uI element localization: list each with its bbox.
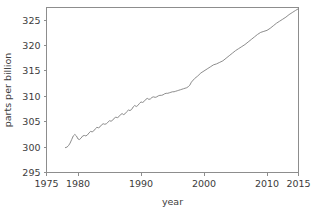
y-tick-label: 325 <box>22 15 40 26</box>
y-axis-title: parts per billion <box>2 53 13 128</box>
x-tick-label: 1990 <box>129 178 153 189</box>
y-tick-label: 320 <box>22 40 40 51</box>
line-chart: 197519801990200020102015 295300305310315… <box>0 0 313 212</box>
y-tick-label: 310 <box>22 91 40 102</box>
x-tick-label: 1980 <box>66 178 90 189</box>
x-axis-title: year <box>162 196 183 207</box>
x-tick-label: 2010 <box>255 178 279 189</box>
x-tick-label: 2015 <box>286 178 310 189</box>
x-tick-label: 1975 <box>34 178 58 189</box>
figure-container: 197519801990200020102015 295300305310315… <box>0 0 313 212</box>
y-tick-label: 315 <box>22 65 40 76</box>
y-tick-label: 305 <box>22 116 40 127</box>
y-tick-label: 300 <box>22 142 40 153</box>
y-tick-label: 295 <box>22 167 40 178</box>
x-tick-label: 2000 <box>192 178 216 189</box>
